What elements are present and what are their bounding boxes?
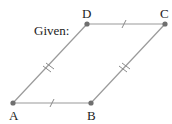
point-c [162, 21, 167, 26]
edge-bc [91, 24, 165, 103]
vertex-label-a: A [9, 108, 19, 123]
point-d [84, 21, 89, 26]
point-a [10, 100, 15, 105]
given-label: Given: [34, 23, 69, 38]
double-tick-mark-ad [43, 63, 54, 72]
parallelogram-diagram: Given: A B C D [0, 0, 172, 124]
vertex-label-c: C [160, 6, 169, 21]
vertex-label-d: D [82, 6, 91, 21]
vertex-label-b: B [87, 108, 96, 123]
point-b [88, 100, 93, 105]
